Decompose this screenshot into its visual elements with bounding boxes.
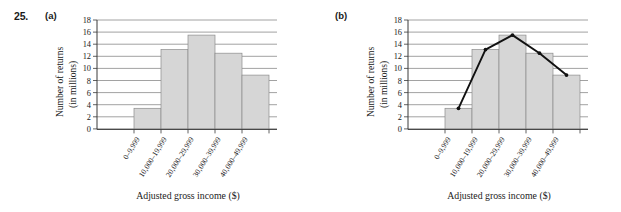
y-tick-14: 14	[394, 40, 403, 49]
y-tick-6: 6	[87, 89, 91, 98]
panel-a-x-ticks	[134, 129, 269, 133]
y-tick-12: 12	[83, 52, 91, 61]
y-tick-8: 8	[398, 77, 402, 86]
panel-a-bars	[134, 35, 269, 129]
panel-a-y-tick-labels: 18 16 14 12 10 8 6 4 2 0	[83, 16, 92, 134]
bar-20000-29999	[499, 35, 526, 129]
y-tick-0: 0	[398, 125, 402, 134]
y-tick-4: 4	[87, 101, 92, 110]
panel-a-x-category-labels: 0–9,999 10,000–19,999 20,000–29,999 30,0…	[121, 135, 250, 179]
panel-a-plot: 18 16 14 12 10 8 6 4 2 0	[0, 0, 300, 212]
bar-30000-39999	[215, 53, 242, 129]
panel-b-x-category-labels: 0–9,999 10,000–19,999 20,000–29,999 30,0…	[432, 135, 561, 179]
x-label-0: 0–9,999	[121, 135, 142, 161]
bar-0-9999	[445, 108, 472, 129]
y-tick-4: 4	[398, 101, 403, 110]
y-tick-16: 16	[83, 28, 91, 37]
y-tick-18: 18	[394, 16, 402, 25]
bar-40000-49999	[242, 75, 269, 129]
bar-30000-39999	[526, 53, 553, 129]
y-tick-2: 2	[87, 113, 91, 122]
panel-a: (a) Number of returns (in millions)	[0, 0, 300, 212]
panel-b-x-axis-title: Adjusted gross income ($)	[408, 190, 590, 201]
panel-b-bars	[445, 35, 580, 129]
panel-b: (b) Number of returns (in millions)	[311, 0, 611, 212]
y-tick-10: 10	[394, 64, 402, 73]
y-tick-6: 6	[398, 89, 402, 98]
bar-20000-29999	[188, 35, 215, 129]
x-label-4: 40,000–49,999	[218, 135, 250, 179]
y-tick-0: 0	[87, 125, 91, 134]
panel-a-x-axis-title: Adjusted gross income ($)	[97, 190, 279, 201]
y-tick-8: 8	[87, 77, 91, 86]
y-tick-2: 2	[398, 113, 402, 122]
y-tick-16: 16	[394, 28, 402, 37]
y-tick-14: 14	[83, 40, 92, 49]
panel-b-y-tick-labels: 18 16 14 12 10 8 6 4 2 0	[394, 16, 403, 134]
panel-b-plot: 18 16 14 12 10 8 6 4 2 0	[311, 0, 611, 212]
x-label-0: 0–9,999	[432, 135, 453, 161]
x-label-4: 40,000–49,999	[529, 135, 561, 179]
panel-b-x-ticks	[445, 129, 580, 133]
bar-10000-19999	[161, 50, 188, 129]
bar-0-9999	[134, 108, 161, 129]
panel-a-y-ticks	[93, 20, 97, 129]
y-tick-18: 18	[83, 16, 91, 25]
figure-root: 25. (a) Number of returns (in millions)	[0, 0, 621, 212]
bar-40000-49999	[553, 75, 580, 129]
y-tick-10: 10	[83, 64, 91, 73]
panel-b-y-ticks	[404, 20, 408, 129]
y-tick-12: 12	[394, 52, 402, 61]
bar-10000-19999	[472, 50, 499, 129]
